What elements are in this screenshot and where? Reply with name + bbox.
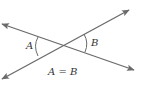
line-descending bbox=[2, 24, 134, 70]
angle-b-arc bbox=[84, 34, 87, 52]
angle-a-label: A bbox=[25, 40, 33, 51]
equation-label: A = B bbox=[47, 66, 77, 77]
angle-a-arc bbox=[36, 37, 39, 56]
vertical-angles-diagram: A B A = B bbox=[0, 0, 145, 88]
angle-b-label: B bbox=[90, 37, 98, 48]
